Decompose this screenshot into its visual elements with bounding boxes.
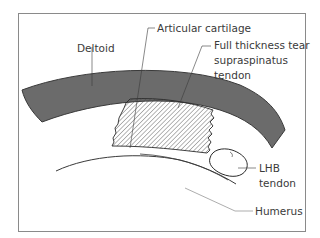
label-humerus: Humerus xyxy=(255,205,303,217)
label-lhb-line1: LHB xyxy=(259,162,280,174)
humerus-leader-line xyxy=(185,188,253,211)
diagram-canvas: Deltoid Articular cartilage Full thickne… xyxy=(0,0,320,238)
label-articular-cartilage: Articular cartilage xyxy=(157,22,251,34)
shoulder-tear-diagram: Deltoid Articular cartilage Full thickne… xyxy=(0,0,320,238)
supraspinatus-tendon-tear xyxy=(112,99,214,153)
label-tear-line3: tendon xyxy=(214,69,251,81)
label-lhb-line2: tendon xyxy=(259,177,296,189)
label-deltoid: Deltoid xyxy=(77,42,115,54)
label-tear-line2: supraspinatus xyxy=(214,54,288,66)
label-tear-line1: Full thickness tear xyxy=(214,39,310,51)
